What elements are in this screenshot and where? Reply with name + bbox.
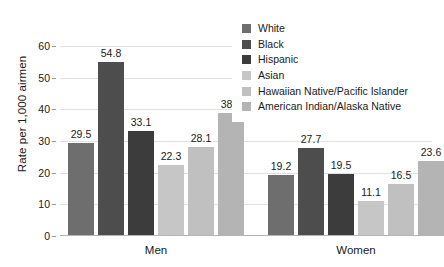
bar-value-label: 33.1 <box>131 117 151 128</box>
bar-value-label: 29.5 <box>71 129 91 140</box>
y-axis-tick-label: 30 <box>38 136 50 146</box>
legend-item: Hispanic <box>242 52 426 68</box>
y-axis-tick-label: 0 <box>44 231 50 241</box>
legend-swatch-icon <box>242 55 251 64</box>
legend-swatch-icon <box>242 102 251 111</box>
bar-value-label: 23.6 <box>421 147 441 158</box>
y-axis-tick-label: 10 <box>38 199 50 209</box>
y-axis-tick-mark <box>52 46 56 47</box>
bar <box>328 174 354 236</box>
y-axis-tick-mark <box>52 173 56 174</box>
y-axis-tick-mark <box>52 204 56 205</box>
bar-value-label: 28.1 <box>191 133 211 144</box>
bar <box>68 143 94 236</box>
bar-value-label: 16.5 <box>391 170 411 181</box>
bar <box>388 184 414 236</box>
bar <box>128 131 154 236</box>
bar <box>298 148 324 236</box>
legend-swatch-icon <box>242 71 251 80</box>
legend-item-label: Hawaiian Native/Pacific Islander <box>258 86 408 97</box>
legend-item-label: Black <box>258 39 284 50</box>
bar-chart: Rate per 1,000 airmen 0102030405060 29.5… <box>0 0 444 267</box>
y-axis-tick-label: 20 <box>38 168 50 178</box>
legend-swatch-icon <box>242 40 251 49</box>
y-axis-tick-labels: 0102030405060 <box>0 46 56 236</box>
bar-value-label: 54.8 <box>101 48 121 59</box>
bar <box>188 147 214 236</box>
x-axis-line <box>60 235 432 236</box>
x-axis-category-label: Men <box>145 244 167 256</box>
legend-item-label: Hispanic <box>258 54 298 65</box>
bar-value-label: 27.7 <box>301 134 321 145</box>
bar <box>158 165 184 236</box>
bar <box>218 113 244 236</box>
chart-legend: WhiteBlackHispanicAsianHawaiian Native/P… <box>232 14 432 122</box>
x-axis-category-label: Women <box>336 244 375 256</box>
legend-item: Hawaiian Native/Pacific Islander <box>242 83 426 99</box>
y-axis-tick-mark <box>52 236 56 237</box>
bar <box>358 201 384 236</box>
legend-item-label: White <box>258 23 285 34</box>
bar <box>268 175 294 236</box>
bar <box>98 62 124 236</box>
legend-item: Asian <box>242 68 426 84</box>
bar-value-label: 19.2 <box>271 161 291 172</box>
legend-item: Black <box>242 37 426 53</box>
legend-swatch-icon <box>242 87 251 96</box>
bar-value-label: 19.5 <box>331 160 351 171</box>
legend-swatch-icon <box>242 24 251 33</box>
legend-item: American Indian/Alaska Native <box>242 99 426 115</box>
legend-item-label: American Indian/Alaska Native <box>258 101 401 112</box>
y-axis-tick-mark <box>52 78 56 79</box>
y-axis-tick-label: 60 <box>38 41 50 51</box>
bar <box>418 161 444 236</box>
bar-value-label: 22.3 <box>161 151 181 162</box>
y-axis-tick-mark <box>52 109 56 110</box>
bar-value-label: 11.1 <box>361 187 381 198</box>
y-axis-tick-label: 40 <box>38 104 50 114</box>
y-axis-tick-mark <box>52 141 56 142</box>
y-axis-tick-label: 50 <box>38 73 50 83</box>
legend-item-label: Asian <box>258 70 284 81</box>
legend-item: White <box>242 21 426 37</box>
